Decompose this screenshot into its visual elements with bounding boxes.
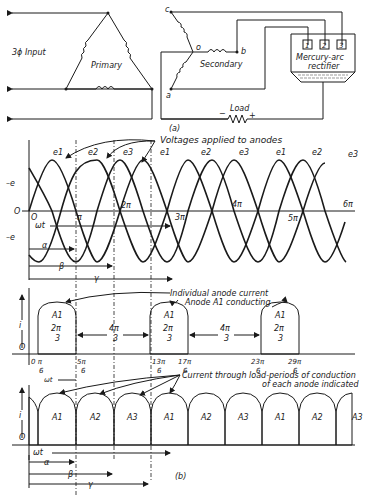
omega-t-label: ωt bbox=[35, 221, 46, 230]
svg-text:e1: e1 bbox=[53, 148, 63, 157]
svg-text:β: β bbox=[67, 470, 73, 479]
svg-text:2π: 2π bbox=[51, 324, 61, 333]
load-resistor: − Load + bbox=[161, 82, 323, 123]
primary-delta: Primary bbox=[65, 12, 154, 91]
svg-text:17π: 17π bbox=[178, 358, 192, 366]
svg-text:A2: A2 bbox=[89, 413, 101, 422]
svg-text:A2: A2 bbox=[311, 413, 323, 422]
svg-text:23π: 23π bbox=[251, 358, 265, 366]
svg-text:2π: 2π bbox=[163, 324, 173, 333]
segment-labels: A1 A2 A3 A1 A2 A3 A1 A2 A3 bbox=[50, 412, 363, 422]
svg-text:3: 3 bbox=[278, 334, 283, 343]
anode-current-plot: i O A1 A1 A1 2π 3 2π 3 2π 3 4π 3 4π 3 In… bbox=[12, 288, 355, 384]
load-current-plot: Current through load-periods of conducti… bbox=[12, 371, 363, 489]
wire-c bbox=[171, 12, 342, 45]
svg-text:2π: 2π bbox=[121, 201, 131, 210]
svg-text:A3: A3 bbox=[351, 413, 363, 422]
load-minus: − bbox=[219, 109, 226, 118]
mercury-arc-rectifier: 1 2 3 Mercury-arc rectifier bbox=[291, 34, 355, 82]
svg-text:O: O bbox=[19, 343, 25, 352]
anode-annotation-1: Individual anode current bbox=[170, 289, 269, 298]
svg-text:5π: 5π bbox=[288, 214, 298, 223]
svg-text:ωt: ωt bbox=[33, 448, 44, 457]
wire-a bbox=[171, 27, 308, 89]
svg-text:O: O bbox=[19, 433, 25, 442]
node-o: o bbox=[196, 43, 201, 52]
alpha-label: α bbox=[42, 241, 48, 250]
circuit-diagram: 3ϕ Input Primary c o b a Secondary bbox=[12, 5, 355, 133]
node-a: a bbox=[166, 91, 171, 100]
load-annotation-1: Current through load-periods of conducti… bbox=[182, 371, 356, 380]
svg-text:4π: 4π bbox=[109, 324, 119, 333]
svg-text:e2: e2 bbox=[312, 148, 322, 157]
node-b: b bbox=[241, 47, 246, 56]
svg-text:4π: 4π bbox=[220, 324, 230, 333]
svg-text:π: π bbox=[77, 213, 82, 222]
svg-text:5π: 5π bbox=[77, 358, 86, 366]
svg-text:3: 3 bbox=[55, 334, 60, 343]
svg-text:A2: A2 bbox=[200, 413, 212, 422]
svg-text:3: 3 bbox=[113, 334, 118, 343]
svg-text:A1: A1 bbox=[274, 413, 286, 422]
svg-text:e3: e3 bbox=[123, 148, 133, 157]
rectifier-figure: 3ϕ Input Primary c o b a Secondary bbox=[0, 0, 376, 497]
svg-text:i: i bbox=[19, 321, 22, 330]
svg-text:A1: A1 bbox=[163, 311, 175, 320]
svg-text:2π: 2π bbox=[274, 324, 284, 333]
svg-text:A1: A1 bbox=[274, 311, 286, 320]
svg-text:α: α bbox=[44, 458, 50, 467]
svg-text:e3: e3 bbox=[348, 150, 358, 159]
svg-text:6: 6 bbox=[81, 367, 86, 375]
svg-text:3: 3 bbox=[167, 334, 172, 343]
svg-text:ωt: ωt bbox=[44, 376, 53, 384]
secondary-label: Secondary bbox=[200, 60, 243, 69]
svg-text:A3: A3 bbox=[126, 413, 138, 422]
svg-text:29π: 29π bbox=[288, 358, 302, 366]
load-plus: + bbox=[249, 111, 256, 120]
load-annotation-2: of each anode indicated bbox=[262, 380, 359, 389]
svg-text:6: 6 bbox=[39, 367, 44, 375]
svg-text:e1: e1 bbox=[276, 148, 286, 157]
svg-text:13π: 13π bbox=[152, 358, 166, 366]
node-c: c bbox=[165, 5, 170, 14]
input-label: 3ϕ Input bbox=[12, 48, 46, 57]
svg-text:A1: A1 bbox=[51, 413, 63, 422]
svg-text:i: i bbox=[19, 411, 22, 420]
svg-text:4π: 4π bbox=[232, 200, 242, 209]
anode-annotation-2: Anode A1 conducting bbox=[184, 298, 271, 307]
svg-text:A1: A1 bbox=[51, 311, 63, 320]
curve-labels: e1 e2 e3 e1 e2 e3 e1 e2 e3 bbox=[53, 148, 358, 159]
svg-text:A3: A3 bbox=[237, 413, 249, 422]
anode-3-label: 3 bbox=[339, 42, 343, 50]
svg-text:e2: e2 bbox=[201, 148, 211, 157]
svg-text:e1: e1 bbox=[160, 148, 170, 157]
load-segments bbox=[38, 393, 352, 445]
beta-label: β bbox=[58, 262, 64, 271]
svg-text:0 π: 0 π bbox=[31, 358, 43, 366]
y-label-pos: –e bbox=[6, 179, 15, 188]
anode-2-label: 2 bbox=[322, 42, 327, 50]
anode-1-label: 1 bbox=[305, 42, 309, 50]
svg-text:3: 3 bbox=[224, 334, 229, 343]
rectifier-label-2: rectifier bbox=[308, 62, 340, 71]
part-b-label: (b) bbox=[175, 472, 186, 481]
svg-text:6: 6 bbox=[157, 367, 162, 375]
voltage-annotation: Voltages applied to anodes bbox=[160, 135, 282, 145]
primary-label: Primary bbox=[91, 61, 122, 70]
rectifier-label-1: Mercury-arc bbox=[296, 53, 344, 62]
svg-text:e3: e3 bbox=[239, 148, 249, 157]
y-label-zero: O bbox=[14, 207, 20, 216]
svg-text:A1: A1 bbox=[163, 413, 175, 422]
svg-text:e2: e2 bbox=[88, 148, 98, 157]
load-label: Load bbox=[230, 104, 250, 113]
part-a-label: (a) bbox=[169, 124, 180, 133]
svg-text:3π: 3π bbox=[175, 213, 185, 222]
svg-text:6π: 6π bbox=[343, 200, 353, 209]
y-label-neg: –e bbox=[6, 233, 15, 242]
